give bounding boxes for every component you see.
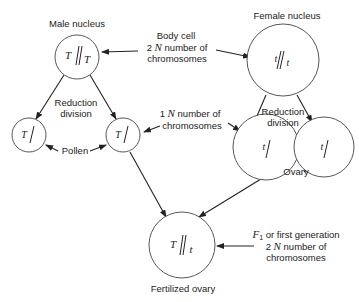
male-nucleus-node: T T <box>55 35 99 79</box>
arrow-bodycell-to-female <box>216 50 250 57</box>
arrow-bodycell-to-male <box>102 51 138 52</box>
female-nucleus-label: Female nucleus <box>253 10 320 21</box>
male-allele-left: T <box>65 49 72 61</box>
one-n-annotation: 1 N number of chromosomes <box>160 107 222 131</box>
svg-text:Reduction: Reduction <box>55 97 98 108</box>
fertilized-allele-left: T <box>170 238 177 250</box>
male-nucleus-label: Male nucleus <box>49 18 105 29</box>
svg-text:division: division <box>267 117 299 128</box>
arrow-pollen-left <box>46 145 58 151</box>
svg-text:Body cell: Body cell <box>157 30 196 41</box>
ovary-label: Ovary <box>283 166 309 177</box>
ovary-left-allele: t <box>263 141 266 152</box>
edge-pollen-to-fertilized <box>130 152 166 217</box>
body-cell-annotation: Body cell 2 N number of chromosomes <box>147 30 208 64</box>
svg-text:F1 or first generation: F1 or first generation <box>251 228 339 242</box>
genetics-diagram: Male nucleus T T Female nucleus t t T T … <box>0 0 359 302</box>
ovary-right-allele: t <box>321 141 324 152</box>
svg-text:chromosomes: chromosomes <box>147 53 207 64</box>
male-allele-right: T <box>84 53 91 65</box>
reduction-division-right: Reduction division <box>262 106 305 128</box>
f1-annotation: F1 or first generation 2 N number of chr… <box>251 228 339 263</box>
arrow-pollen-right <box>90 145 106 151</box>
arrow-1n-to-pollen <box>144 126 160 132</box>
female-allele-left: t <box>275 53 278 64</box>
fertilized-ovary-label: Fertilized ovary <box>151 283 216 294</box>
svg-text:chromosomes: chromosomes <box>266 252 326 263</box>
svg-text:division: division <box>60 108 92 119</box>
female-allele-right: t <box>287 57 290 68</box>
svg-text:Reduction: Reduction <box>262 106 305 117</box>
svg-text:2 N number of: 2 N number of <box>147 41 208 53</box>
pollen-label: Pollen <box>62 145 88 156</box>
svg-text:1 N number of: 1 N number of <box>160 107 221 119</box>
fertilized-ovary-node: T t <box>149 212 215 278</box>
svg-text:chromosomes: chromosomes <box>162 120 222 131</box>
edge-ovary-to-fertilized <box>199 179 261 217</box>
female-nucleus-node: t t <box>247 24 319 96</box>
pollen-left-node: T <box>12 118 46 152</box>
svg-text:2 N number of: 2 N number of <box>266 240 327 252</box>
reduction-division-left: Reduction division <box>55 97 98 119</box>
pollen-right-node: T <box>106 118 140 152</box>
